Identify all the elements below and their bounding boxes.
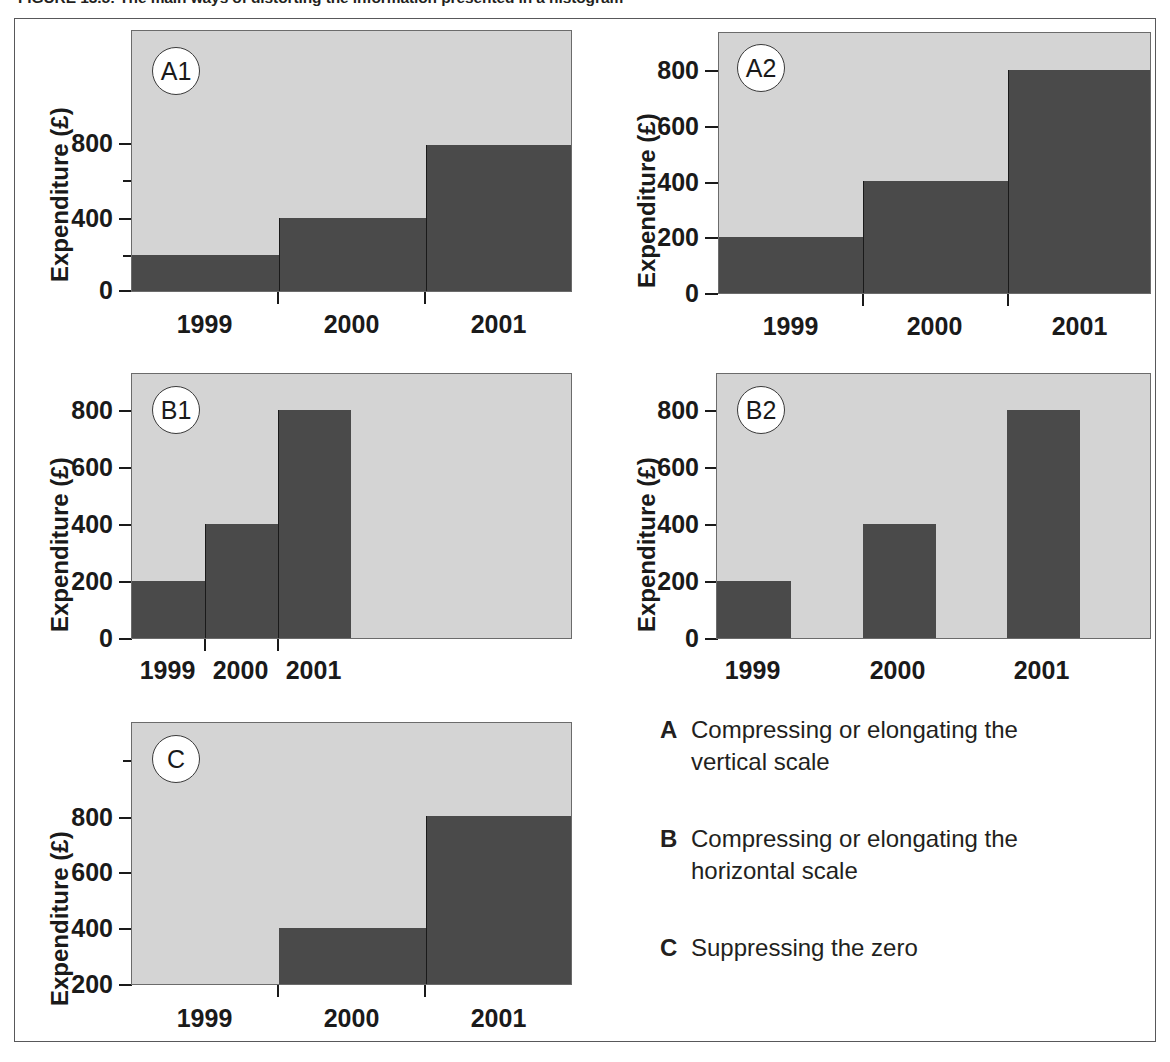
- x-tick-label-a1-1999: 1999: [155, 312, 254, 337]
- legend-item-a: A Compressing or elongating the vertical…: [660, 714, 1090, 779]
- y-tick-label-a1-800: 800: [55, 131, 113, 156]
- chart-panel-b1: Expenditure (£) 800 600 400 200 0 B1 199…: [0, 350, 585, 690]
- y-tick-label-a1-0: 0: [55, 278, 113, 303]
- bar-a2-2000: [863, 181, 1008, 293]
- x-tick-label-a1-2000: 2000: [302, 312, 401, 337]
- bar-a1-1999: [132, 255, 279, 291]
- bar-a1-2001: [426, 145, 572, 291]
- bar-b2-1999: [717, 581, 791, 638]
- x-tick-label-b1-2001: 2001: [264, 658, 363, 683]
- legend: A Compressing or elongating the vertical…: [660, 714, 1090, 1008]
- y-axis-label-b2: Expenditure (£): [633, 457, 661, 632]
- bar-a1-2000: [279, 218, 426, 291]
- legend-key-b: B: [660, 823, 686, 888]
- x-tick-label-c-2000: 2000: [302, 1006, 401, 1031]
- x-axis-tick-c-b1: [277, 985, 279, 997]
- bar-b1-2000: [205, 524, 278, 638]
- chart-panel-a2: Expenditure (£) 800 600 400 200 0 A2 199…: [585, 0, 1170, 350]
- x-axis-tick-a2-b1: [862, 294, 864, 306]
- y-tick-a2-200: [705, 237, 718, 239]
- y-tick-label-b2-0: 0: [641, 626, 699, 651]
- y-tick-label-b1-600: 600: [55, 455, 113, 480]
- bar-c-2001: [426, 816, 572, 984]
- y-tick-label-b1-0: 0: [55, 626, 113, 651]
- x-axis-tick-c-b2: [424, 985, 426, 997]
- y-tick-label-b1-200: 200: [55, 569, 113, 594]
- bar-b2-2000: [863, 524, 936, 638]
- x-tick-label-b2-1999: 1999: [703, 658, 802, 683]
- x-axis-tick-a1-b1: [277, 292, 279, 304]
- bar-b1-2001: [278, 410, 351, 638]
- y-tick-label-c-800: 800: [55, 805, 113, 830]
- y-tick-label-a1-400: 400: [55, 206, 113, 231]
- panel-badge-b1: B1: [152, 386, 200, 434]
- x-axis-tick-b1-b1: [204, 639, 206, 651]
- panel-badge-a2: A2: [737, 44, 785, 92]
- x-tick-label-a2-2000: 2000: [885, 314, 984, 339]
- x-tick-label-a2-1999: 1999: [741, 314, 840, 339]
- y-tick-label-b2-200: 200: [641, 569, 699, 594]
- y-tick-a2-0: [705, 293, 718, 295]
- y-tick-label-c-200: 200: [55, 972, 113, 997]
- x-tick-label-a1-2001: 2001: [449, 312, 548, 337]
- bar-a2-2001: [1008, 70, 1151, 293]
- y-tick-label-a2-200: 200: [641, 225, 699, 250]
- y-tick-label-c-400: 400: [55, 916, 113, 941]
- legend-key-c: C: [660, 932, 686, 964]
- chart-panel-c: Expenditure (£) 800 600 400 200 C 1999 2…: [0, 690, 585, 1062]
- y-tick-label-b2-600: 600: [641, 455, 699, 480]
- panel-badge-b2: B2: [737, 386, 785, 434]
- x-axis-tick-a2-b2: [1007, 294, 1009, 306]
- x-tick-label-c-1999: 1999: [155, 1006, 254, 1031]
- bar-b1-1999: [132, 581, 205, 638]
- panel-badge-a1: A1: [152, 47, 200, 95]
- y-axis-label-b1: Expenditure (£): [46, 457, 74, 632]
- legend-key-a: A: [660, 714, 686, 779]
- y-tick-label-b1-800: 800: [55, 398, 113, 423]
- y-tick-label-b1-400: 400: [55, 512, 113, 537]
- x-tick-label-b2-2000: 2000: [848, 658, 947, 683]
- panel-badge-c: C: [152, 735, 200, 783]
- y-tick-label-b2-400: 400: [641, 512, 699, 537]
- legend-text-b: Compressing or elongating the horizontal…: [686, 823, 1090, 888]
- y-tick-label-b2-800: 800: [641, 398, 699, 423]
- y-tick-label-a2-600: 600: [641, 114, 699, 139]
- x-axis-tick-a1-b2: [424, 292, 426, 304]
- x-tick-label-b2-2001: 2001: [992, 658, 1091, 683]
- legend-text-a: Compressing or elongating the vertical s…: [686, 714, 1090, 779]
- bar-a2-1999: [719, 237, 863, 293]
- legend-text-c: Suppressing the zero: [686, 932, 918, 964]
- legend-item-b: B Compressing or elongating the horizont…: [660, 823, 1090, 888]
- x-tick-label-a2-2001: 2001: [1030, 314, 1129, 339]
- y-tick-a2-400: [705, 182, 718, 184]
- chart-panel-b2: Expenditure (£) 800 600 400 200 0 B2 199…: [585, 350, 1170, 690]
- bar-c-2000: [279, 928, 426, 984]
- y-tick-label-a2-800: 800: [641, 58, 699, 83]
- y-tick-label-a2-400: 400: [641, 170, 699, 195]
- bar-b2-2001: [1007, 410, 1080, 638]
- legend-item-c: C Suppressing the zero: [660, 932, 1090, 964]
- x-tick-label-c-2001: 2001: [449, 1006, 548, 1031]
- y-tick-label-c-600: 600: [55, 860, 113, 885]
- chart-panel-a1: Expenditure (£) 800 400 0 A1 1999 2000 2…: [0, 0, 585, 350]
- y-tick-a2-600: [705, 126, 718, 128]
- y-tick-label-a2-0: 0: [641, 281, 699, 306]
- x-axis-tick-b1-b2: [277, 639, 279, 651]
- y-tick-a2-800: [705, 70, 718, 72]
